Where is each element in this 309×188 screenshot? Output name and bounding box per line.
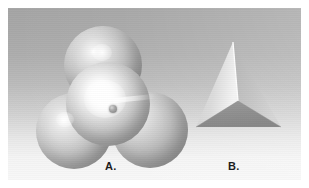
figure-label-a: A. bbox=[105, 160, 116, 172]
figure-root: A. B. bbox=[0, 0, 309, 188]
figure-label-b: B. bbox=[228, 160, 239, 172]
raster-noise-overlay bbox=[8, 8, 301, 180]
illustration-panel: A. B. bbox=[8, 8, 301, 180]
